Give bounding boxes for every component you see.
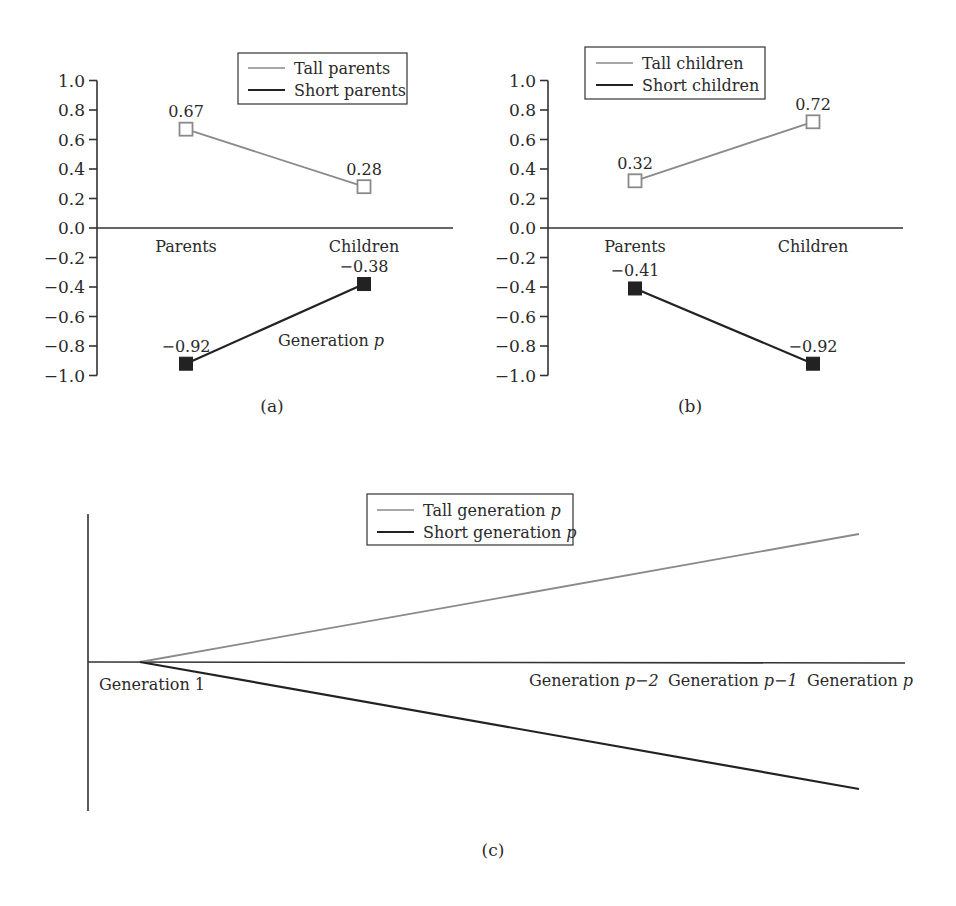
data-value-label: −0.41 — [610, 261, 659, 280]
legend-label-short-parents: Short parents — [294, 81, 406, 100]
y-tick-label: −0.8 — [495, 336, 536, 356]
data-value-label: −0.38 — [339, 257, 388, 276]
panel-a-category-children: Children — [329, 237, 399, 256]
panel-a-series-tall: 0.670.28 — [168, 102, 382, 193]
panel-c-label-generation-p: Generation p — [807, 671, 913, 690]
y-tick-label: 0.2 — [58, 189, 85, 209]
panel-a-category-parents: Parents — [155, 237, 217, 256]
y-tick-label: −0.2 — [495, 248, 536, 268]
data-value-label: 0.28 — [346, 160, 382, 179]
y-tick-label: 1.0 — [58, 71, 85, 91]
data-value-label: 0.72 — [795, 95, 831, 114]
series-line — [186, 129, 364, 187]
legend-label-short-generation: Short generation p — [423, 523, 577, 542]
panel-a-caption: (a) — [260, 396, 283, 416]
y-tick-label: 0.0 — [58, 218, 85, 238]
data-value-label: −0.92 — [161, 337, 210, 356]
series-line — [635, 288, 813, 363]
y-tick-label: −0.4 — [44, 277, 85, 297]
panel-b-series-short: −0.41−0.92 — [610, 261, 837, 370]
filled-square-marker — [358, 278, 371, 291]
panel-b-y-axis: 1.00.80.60.40.20.0−0.2−0.4−0.6−0.8−1.0 — [495, 71, 548, 386]
series-line — [635, 122, 813, 181]
open-square-marker — [358, 180, 371, 193]
panel-b-category-parents: Parents — [604, 237, 666, 256]
y-tick-label: −1.0 — [495, 366, 536, 386]
legend-label-tall-generation: Tall generation p — [423, 501, 561, 520]
panel-b: 1.00.80.60.40.20.0−0.2−0.4−0.6−0.8−1.0 P… — [495, 47, 903, 416]
data-value-label: 0.67 — [168, 102, 204, 121]
y-tick-label: 0.6 — [509, 130, 536, 150]
panel-c-x-axis — [88, 662, 905, 663]
y-tick-label: 0.4 — [58, 159, 85, 179]
y-tick-label: −1.0 — [44, 366, 85, 386]
panel-b-series-tall: 0.320.72 — [617, 95, 831, 188]
panel-a-series-short: −0.92−0.38 — [161, 257, 388, 370]
panel-c-label-generation-p-2: Generation p−2 — [529, 671, 659, 690]
panel-b-category-children: Children — [778, 237, 848, 256]
panel-b-caption: (b) — [678, 396, 702, 416]
filled-square-marker — [629, 282, 642, 295]
y-tick-label: 0.8 — [509, 100, 536, 120]
panel-b-legend: Tall children Short children — [585, 47, 765, 99]
open-square-marker — [180, 123, 193, 136]
panel-a: 1.00.80.60.40.20.0−0.2−0.4−0.6−0.8−1.0 P… — [44, 53, 453, 416]
y-tick-label: −0.4 — [495, 277, 536, 297]
y-tick-label: −0.2 — [44, 248, 85, 268]
y-tick-label: 1.0 — [509, 71, 536, 91]
legend-label-short-children: Short children — [642, 76, 759, 95]
legend-label-tall-parents: Tall parents — [294, 59, 390, 78]
y-tick-label: 0.2 — [509, 189, 536, 209]
open-square-marker — [807, 115, 820, 128]
legend-label-tall-children: Tall children — [642, 54, 743, 73]
y-tick-label: −0.6 — [44, 307, 85, 327]
y-tick-label: 0.0 — [509, 218, 536, 238]
panel-c-line-tall — [140, 534, 859, 662]
figure: 1.00.80.60.40.20.0−0.2−0.4−0.6−0.8−1.0 P… — [0, 0, 956, 906]
panel-a-y-axis: 1.00.80.60.40.20.0−0.2−0.4−0.6−0.8−1.0 — [44, 71, 97, 386]
open-square-marker — [629, 174, 642, 187]
y-tick-label: −0.8 — [44, 336, 85, 356]
panel-c-label-generation-1: Generation 1 — [99, 675, 205, 694]
data-value-label: −0.92 — [788, 337, 837, 356]
y-tick-label: 0.8 — [58, 100, 85, 120]
y-tick-label: −0.6 — [495, 307, 536, 327]
y-tick-label: 0.6 — [58, 130, 85, 150]
data-value-label: 0.32 — [617, 154, 653, 173]
panel-c-label-generation-p-1: Generation p−1 — [668, 671, 798, 690]
y-tick-label: 0.4 — [509, 159, 536, 179]
panel-a-annotation: Generation p — [278, 331, 384, 350]
panel-c-caption: (c) — [482, 840, 505, 860]
series-line — [186, 284, 364, 364]
filled-square-marker — [180, 357, 193, 370]
filled-square-marker — [807, 357, 820, 370]
panel-a-legend: Tall parents Short parents — [238, 53, 407, 104]
panel-c-legend: Tall generation p Short generation p — [367, 494, 577, 545]
panel-c: Generation 1 Generation p−2 Generation p… — [88, 494, 913, 860]
